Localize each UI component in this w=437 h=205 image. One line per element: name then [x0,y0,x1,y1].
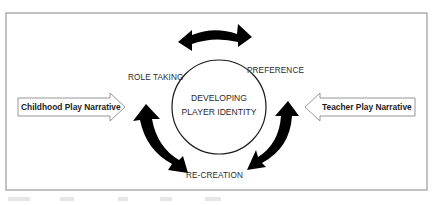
role-taking-label: ROLE TAKING [128,73,183,82]
diagram-canvas: DEVELOPING PLAYER IDENTITY ROLE TAKING P… [0,0,437,205]
re-creation-label: RE-CREATION [186,171,243,180]
center-label-line2: PLAYER IDENTITY [182,107,257,117]
caption-residue [8,197,221,201]
preference-label: PREFERENCE [247,66,304,75]
childhood-play-narrative-label: Childhood Play Narrative [21,102,121,112]
center-label-line1: DEVELOPING [191,93,247,103]
teacher-play-narrative-label: Teacher Play Narrative [322,102,412,112]
